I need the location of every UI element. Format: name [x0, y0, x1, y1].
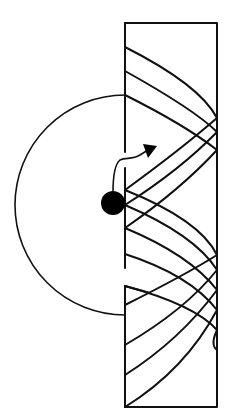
wave-diagram — [0, 0, 243, 414]
reflected-path-curve — [125, 205, 217, 270]
reflected-path-curve — [125, 95, 217, 150]
reflected-path-curve — [125, 150, 217, 228]
reflected-path-curve — [125, 255, 217, 305]
reflected-path-curve — [125, 47, 217, 118]
diagram-canvas — [0, 0, 243, 414]
reflected-path-curve — [125, 190, 217, 255]
ball-icon — [101, 191, 125, 215]
lower-slit-edge — [125, 286, 150, 293]
reflected-paths — [125, 47, 217, 407]
chamber-outer-walls — [125, 23, 217, 407]
reflected-path-curve — [125, 310, 217, 407]
reflected-path-curve — [125, 118, 217, 190]
